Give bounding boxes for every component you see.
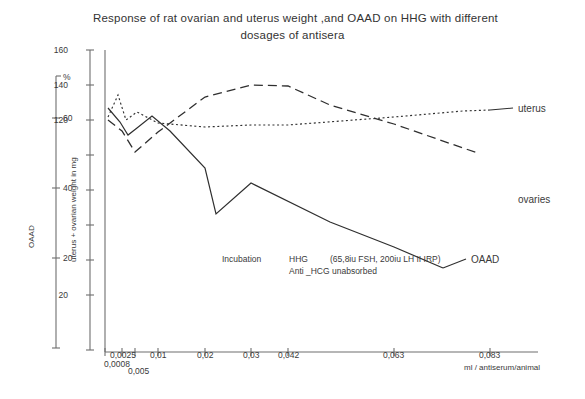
x-tick-label-002: 0,02 — [197, 350, 214, 360]
annotation-hhg: HHG — [289, 254, 308, 264]
series-line-ovaries — [108, 85, 478, 153]
oaad-axis-title: OAAD — [27, 225, 36, 248]
x-axis: 0,0008 0,0025 0,005 0,01 0,02 0,03 0,042… — [104, 50, 540, 376]
x-tick-label-0063: 0,063 — [383, 350, 405, 360]
leader-uterus — [490, 108, 513, 110]
series-group — [108, 85, 490, 268]
incubation-annotation: Incubation HHG (65,8iu FSH, 200iu LH II … — [222, 254, 441, 276]
annotation-anti-hcg: Anti _HCG unabsorbed — [289, 266, 377, 276]
x-axis-title: ml / antiserum/animal — [464, 363, 540, 372]
series-label-ovaries: ovaries — [518, 194, 550, 205]
x-tick-label-0042: 0,042 — [278, 350, 300, 360]
x-tick-label-0083: 0,083 — [479, 350, 501, 360]
weight-tick-label-120: 120 — [54, 115, 68, 125]
x-tick-label-001: 0,01 — [150, 350, 167, 360]
weight-axis: 160 140 120 20 uterus + ovarian weight i… — [54, 45, 94, 350]
x-tick-label-0008: 0,0008 — [104, 359, 130, 369]
x-tick-label-003: 0,03 — [243, 350, 260, 360]
weight-tick-label-140: 140 — [54, 80, 68, 90]
series-label-uterus: uterus — [518, 103, 546, 114]
chart-svg: % 60 40 20 OAAD 160 140 120 20 uterus + … — [0, 0, 585, 399]
annotation-hormone-units: (65,8iu FSH, 200iu LH II IRP) — [330, 254, 441, 264]
oaad-axis: % 60 40 20 OAAD — [27, 72, 73, 348]
series-leaders — [443, 108, 513, 268]
weight-axis-title: uterus + ovarian weight in mg — [69, 157, 78, 262]
figure-container: Response of rat ovarian and uterus weigh… — [0, 0, 585, 399]
x-tick-label-00025: 0,0025 — [110, 350, 136, 360]
weight-tick-label-160: 160 — [54, 45, 68, 55]
x-tick-label-0005: 0,005 — [128, 366, 150, 376]
series-line-uterus — [108, 95, 490, 127]
series-label-oaad: OAAD — [471, 254, 499, 265]
leader-oaad — [443, 259, 466, 268]
weight-tick-label-20: 20 — [59, 290, 69, 300]
annotation-incubation: Incubation — [222, 254, 261, 264]
